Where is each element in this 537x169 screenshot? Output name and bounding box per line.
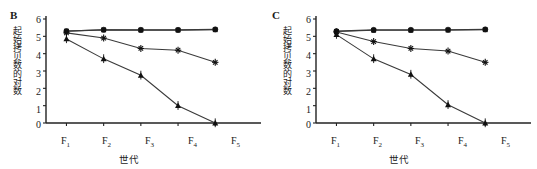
plot-area-b — [0, 0, 268, 169]
panel-c: C 起始拷贝数的对数 6 5 4 3 2 1 0 F1 F2 F3 F4 F5 … — [268, 0, 537, 169]
panel-b: B 起始拷贝数的对数 6 5 4 3 2 1 0 F1 F2 F3 F4 F5 … — [0, 0, 268, 169]
figure-container: B 起始拷贝数的对数 6 5 4 3 2 1 0 F1 F2 F3 F4 F5 … — [0, 0, 537, 169]
plot-area-c — [268, 0, 536, 169]
